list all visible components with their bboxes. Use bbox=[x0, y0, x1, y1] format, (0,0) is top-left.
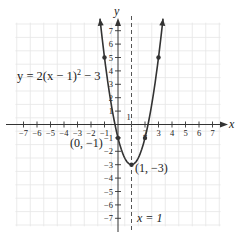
x-tick-label: 5 bbox=[183, 128, 187, 138]
data-point bbox=[156, 55, 160, 59]
x-tick-label: −5 bbox=[46, 128, 55, 138]
y-tick-label: −5 bbox=[104, 187, 113, 197]
data-point bbox=[116, 136, 120, 140]
axes bbox=[6, 18, 228, 232]
point-label-0-neg1: (0, −1) bbox=[70, 136, 103, 150]
equation-label: y = 2(x − 1)2 − 3 bbox=[17, 68, 101, 83]
y-tick-label: 6 bbox=[109, 39, 113, 49]
y-tick-label: 7 bbox=[109, 26, 113, 36]
symmetry-label: x = 1 bbox=[136, 211, 162, 225]
y-tick-label: −7 bbox=[104, 213, 113, 223]
x-tick-label: −4 bbox=[59, 128, 69, 138]
y-axis-label: y bbox=[113, 4, 120, 18]
equation-tail: − 3 bbox=[81, 69, 101, 83]
y-tick-label: −3 bbox=[104, 160, 113, 170]
x-axis-label: x bbox=[228, 117, 235, 131]
y-axis-arrow-icon bbox=[115, 18, 121, 26]
y-tick-label: −2 bbox=[104, 146, 113, 156]
y-tick-label: 4 bbox=[109, 66, 114, 76]
data-point bbox=[143, 136, 147, 140]
y-tick-label: −4 bbox=[104, 173, 114, 183]
x-axis-arrow-icon bbox=[220, 122, 228, 128]
y-tick-label: −6 bbox=[104, 200, 113, 210]
x-tick-label: −6 bbox=[32, 128, 41, 138]
equation-main: y = 2(x − 1) bbox=[17, 69, 77, 83]
x-tick-label: 1 bbox=[126, 112, 130, 122]
x-tick-label: 7 bbox=[210, 128, 214, 138]
x-tick-label: 3 bbox=[156, 128, 160, 138]
data-point bbox=[102, 55, 106, 59]
parabola-graph: −7−6−5−4−3−2−11234567−7−6−5−4−3−2−112345… bbox=[0, 0, 241, 236]
x-tick-label: 6 bbox=[197, 128, 201, 138]
data-point bbox=[129, 163, 133, 167]
vertex-label: (1, −3) bbox=[135, 161, 168, 175]
x-tick-label: −7 bbox=[19, 128, 28, 138]
y-tick-label: −1 bbox=[104, 133, 113, 143]
x-tick-label: 4 bbox=[170, 128, 175, 138]
y-tick-label: 5 bbox=[109, 53, 113, 63]
